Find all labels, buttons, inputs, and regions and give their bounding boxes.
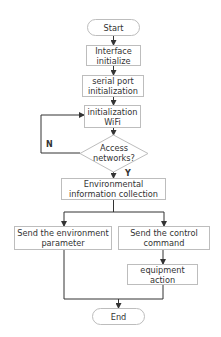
node-interface-initialize: Interface initialize (86, 45, 141, 66)
node-equip-label: equipment action (128, 265, 197, 285)
node-env-label: Environmental information collection (62, 179, 165, 199)
edge-label-no: N (46, 140, 53, 149)
node-end-label: End (111, 312, 127, 322)
node-start: Start (87, 19, 140, 36)
node-end: End (92, 308, 145, 325)
node-serial-label: serial port initialization (83, 76, 143, 96)
node-equipment-action: equipment action (127, 264, 198, 285)
node-access-networks-label: Access networks? (88, 143, 140, 163)
node-send-env-label: Send the environment parameter (15, 228, 111, 248)
node-wifi-init: initialization WiFi (84, 105, 141, 128)
node-send-ctrl-label: Send the control command (119, 228, 209, 248)
edge-label-yes: Y (125, 169, 131, 178)
node-start-label: Start (103, 23, 123, 33)
node-interface-label: Interface initialize (87, 46, 140, 66)
node-env-collection: Environmental information collection (61, 178, 166, 200)
node-send-control-cmd: Send the control command (118, 226, 210, 250)
node-serial-port-init: serial port initialization (82, 75, 144, 97)
node-wifi-label: initialization WiFi (85, 107, 140, 127)
node-send-env-param: Send the environment parameter (14, 226, 112, 250)
